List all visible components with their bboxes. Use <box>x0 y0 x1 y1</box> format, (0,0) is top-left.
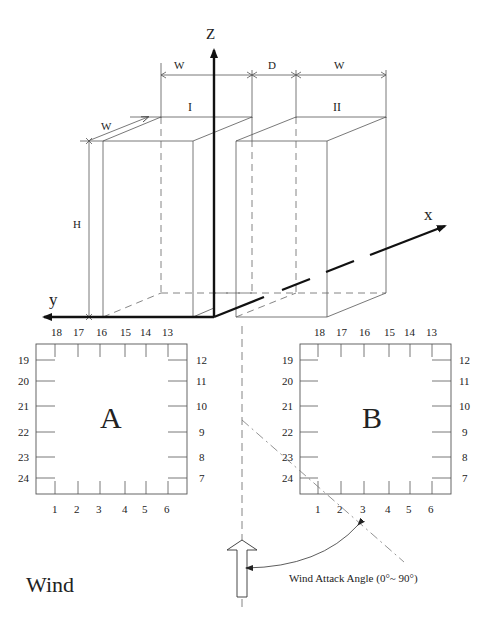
svg-text:19: 19 <box>18 354 30 366</box>
svg-text:15: 15 <box>384 326 396 338</box>
twin-building-diagram: Z x y W D W W H I II A B Wind Wind Attac… <box>0 0 485 617</box>
svg-text:11: 11 <box>196 375 207 387</box>
svg-text:12: 12 <box>459 354 470 366</box>
wind-arrow-icon <box>227 540 257 597</box>
x-axis <box>214 226 445 317</box>
svg-text:7: 7 <box>462 472 468 484</box>
y-axis-label: y <box>49 290 58 309</box>
svg-text:13: 13 <box>426 326 438 338</box>
svg-text:1: 1 <box>315 503 321 515</box>
svg-text:16: 16 <box>359 326 371 338</box>
svg-text:21: 21 <box>282 400 293 412</box>
svg-text:22: 22 <box>18 426 29 438</box>
svg-text:9: 9 <box>462 426 468 438</box>
svg-text:17: 17 <box>73 326 85 338</box>
svg-text:5: 5 <box>142 503 148 515</box>
svg-text:14: 14 <box>140 326 152 338</box>
plan-b-label: B <box>362 401 382 434</box>
svg-text:2: 2 <box>337 503 343 515</box>
svg-text:8: 8 <box>199 451 205 463</box>
svg-text:11: 11 <box>459 375 470 387</box>
attack-angle-label: Wind Attack Angle (0°~ 90°) <box>289 572 418 585</box>
wind-label: Wind <box>26 572 74 597</box>
svg-text:3: 3 <box>96 503 102 515</box>
svg-text:6: 6 <box>428 503 434 515</box>
depth-dimension <box>80 117 161 141</box>
svg-text:14: 14 <box>404 326 416 338</box>
svg-text:6: 6 <box>164 503 170 515</box>
building-i <box>103 117 252 317</box>
svg-text:1: 1 <box>52 503 58 515</box>
width-label-right: W <box>334 59 345 71</box>
building-ii <box>214 117 386 317</box>
svg-text:22: 22 <box>282 426 293 438</box>
svg-text:15: 15 <box>120 326 132 338</box>
svg-text:4: 4 <box>122 503 128 515</box>
svg-text:21: 21 <box>18 400 29 412</box>
building-ii-label: II <box>333 100 341 114</box>
svg-text:24: 24 <box>18 472 30 484</box>
svg-text:23: 23 <box>18 451 30 463</box>
depth-label: W <box>101 120 112 132</box>
svg-text:7: 7 <box>199 472 205 484</box>
svg-text:9: 9 <box>199 426 205 438</box>
svg-text:10: 10 <box>459 400 471 412</box>
width-label-left: W <box>174 59 185 71</box>
svg-text:17: 17 <box>336 326 348 338</box>
angle-arc <box>246 525 358 568</box>
gap-label: D <box>268 59 276 71</box>
height-label: H <box>73 218 81 230</box>
svg-text:5: 5 <box>406 503 412 515</box>
svg-text:18: 18 <box>314 326 326 338</box>
svg-text:10: 10 <box>196 400 208 412</box>
attack-angle-line <box>242 420 404 562</box>
svg-text:12: 12 <box>196 354 207 366</box>
svg-text:3: 3 <box>360 503 366 515</box>
svg-text:2: 2 <box>74 503 80 515</box>
plan-a-label: A <box>100 401 122 434</box>
building-i-label: I <box>188 100 192 114</box>
svg-text:4: 4 <box>385 503 391 515</box>
svg-text:18: 18 <box>51 326 63 338</box>
svg-text:8: 8 <box>462 451 468 463</box>
svg-text:19: 19 <box>282 354 294 366</box>
x-axis-label: x <box>424 205 433 224</box>
svg-text:24: 24 <box>282 472 294 484</box>
height-dimension <box>86 138 92 320</box>
svg-text:20: 20 <box>18 375 30 387</box>
top-dimensions <box>161 63 386 118</box>
svg-text:16: 16 <box>96 326 108 338</box>
z-axis-label: Z <box>206 26 215 42</box>
svg-text:13: 13 <box>162 326 174 338</box>
svg-text:20: 20 <box>282 375 294 387</box>
svg-text:23: 23 <box>282 451 294 463</box>
